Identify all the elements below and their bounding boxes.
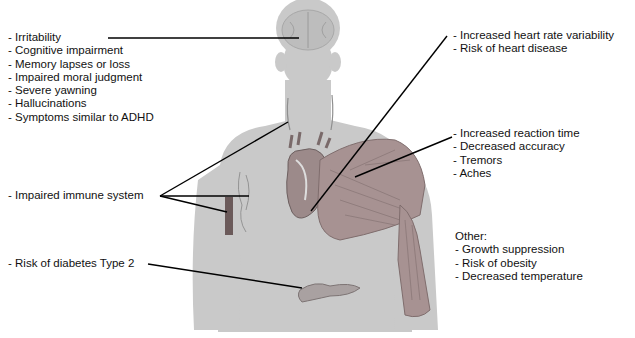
pancreas-effects-list: - Risk of diabetes Type 2 bbox=[8, 257, 134, 270]
immune-effects-list: - Impaired immune system bbox=[8, 189, 143, 202]
brain-effect-item: - Symptoms similar to ADHD bbox=[8, 111, 154, 124]
other-effects-list: Other: - Growth suppression - Risk of ob… bbox=[455, 230, 583, 283]
muscle-effect-item: - Increased reaction time bbox=[453, 127, 580, 140]
brain-effect-item: - Impaired moral judgment bbox=[8, 71, 154, 84]
heart-effect-item: - Risk of heart disease bbox=[453, 42, 614, 55]
other-effect-item: - Risk of obesity bbox=[455, 257, 583, 270]
muscle-effect-item: - Aches bbox=[453, 167, 580, 180]
brain-illustration bbox=[282, 10, 334, 50]
brain-effect-item: - Memory lapses or loss bbox=[8, 58, 154, 71]
pancreas-effect-item: - Risk of diabetes Type 2 bbox=[8, 257, 134, 270]
heart-effect-item: - Increased heart rate variability bbox=[453, 29, 614, 42]
bone-marrow-illustration bbox=[225, 197, 233, 235]
other-effect-item: - Decreased temperature bbox=[455, 270, 583, 283]
brain-effects-list: - Irritability - Cognitive impairment - … bbox=[8, 31, 154, 124]
muscle-effect-item: - Decreased accuracy bbox=[453, 140, 580, 153]
heart-effects-list: - Increased heart rate variability - Ris… bbox=[453, 29, 614, 56]
brain-effect-item: - Irritability bbox=[8, 31, 154, 44]
other-effects-heading: Other: bbox=[455, 230, 583, 243]
other-effect-item: - Growth suppression bbox=[455, 243, 583, 256]
brain-effect-item: - Severe yawning bbox=[8, 84, 154, 97]
muscle-effect-item: - Tremors bbox=[453, 154, 580, 167]
brain-effect-item: - Cognitive impairment bbox=[8, 44, 154, 57]
brain-effect-item: - Hallucinations bbox=[8, 97, 154, 110]
immune-effect-item: - Impaired immune system bbox=[8, 189, 143, 202]
muscle-effects-list: - Increased reaction time - Decreased ac… bbox=[453, 127, 580, 180]
